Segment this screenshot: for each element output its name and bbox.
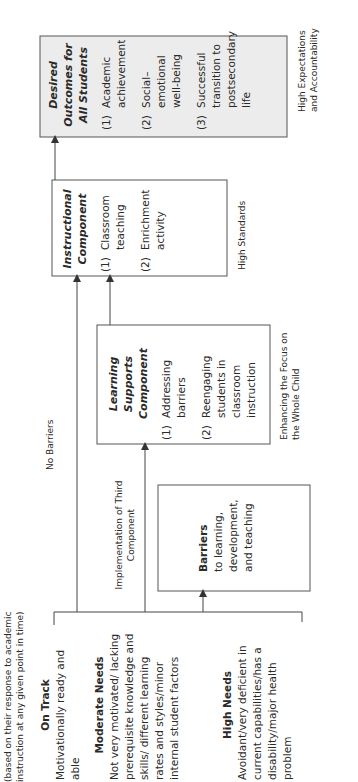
outcomes-text: Desired Outcomes for All Students (1) Ac… (46, 38, 254, 130)
group-title: On Track (38, 630, 53, 780)
edge-label-no-barriers: No Barriers (44, 420, 56, 470)
instructional-title: Instructional Component (60, 186, 90, 272)
learning-supports-caption: Enhancing the Focus on the Whole Child (278, 330, 302, 440)
instructional-item: (2) Enrichment activity (138, 182, 168, 272)
group-description: Avoidant/very deficient in current capab… (235, 628, 295, 780)
outcomes-item: (2) Social–emotional well-being (139, 38, 184, 130)
learning-supports-text: Learning Supports Component (1) Addressi… (106, 328, 259, 440)
group-title: High Needs (220, 630, 235, 780)
edge-label-implementation: Implementation of Third Component (113, 480, 137, 590)
group-high-needs: High Needs Avoidant/very deficient in cu… (220, 620, 295, 780)
group-moderate-needs: Moderate Needs Not very motivated/ lacki… (92, 620, 182, 780)
outcomes-item: (1) Academic achievement (99, 38, 129, 130)
instructional-caption: High Standards (236, 201, 248, 270)
outcomes-caption: High Expectations and Accountability (296, 22, 320, 112)
barriers-title: Barriers (196, 482, 211, 572)
diagram-canvas: (based on their response to academic ins… (0, 0, 358, 782)
instructional-text: Instructional Component (1) Classroom te… (60, 182, 168, 272)
barriers-description: to learning, development, and teaching (211, 482, 256, 572)
header-note: (based on their response to academic ins… (2, 542, 26, 782)
group-description: Motivationally ready and able (53, 640, 83, 780)
barriers-text: Barriers to learning, development, and t… (196, 482, 256, 572)
learning-supports-title: Learning Supports Component (106, 349, 151, 419)
outcomes-title: Desired Outcomes for All Students (46, 40, 91, 130)
learning-supports-item: (1) Addressing barriers (159, 328, 189, 440)
group-title: Moderate Needs (92, 630, 107, 780)
group-on-track: On Track Motivationally ready and able (38, 630, 83, 780)
learning-supports-item: (2) Reengaging students in classroom ins… (199, 328, 259, 440)
instructional-item: (1) Classroom teaching (98, 182, 128, 272)
outcomes-item: (3) Successful transition to postseconda… (194, 38, 254, 130)
group-description: Not very motivated/ lacking prerequisite… (107, 628, 182, 780)
